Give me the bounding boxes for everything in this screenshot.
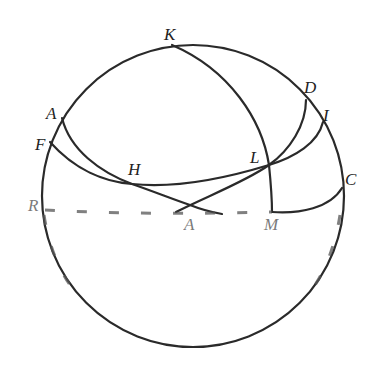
point-label-n: A (183, 215, 195, 234)
point-label-l: L (249, 148, 259, 167)
point-label-c: C (345, 170, 357, 189)
faded-left-edge (44, 215, 70, 285)
point-label-m: M (263, 215, 279, 234)
faded-equator-R-M (45, 210, 272, 213)
point-label-h: H (127, 160, 142, 179)
arc-A-H (62, 118, 222, 214)
sphere-outline (42, 45, 344, 347)
arc-K-L-M (172, 45, 272, 212)
sphere-diagram: KAFHLDICRMA (0, 0, 377, 369)
point-label-r: R (27, 196, 39, 215)
point-label-i: I (322, 106, 330, 125)
point-label-a: A (45, 104, 57, 123)
faded-right-edge (315, 215, 340, 285)
arc-cross-L-D (176, 100, 306, 212)
point-label-f: F (34, 135, 46, 154)
arc-M-C (272, 188, 342, 212)
point-label-k: K (163, 25, 177, 44)
point-label-d: D (303, 78, 317, 97)
